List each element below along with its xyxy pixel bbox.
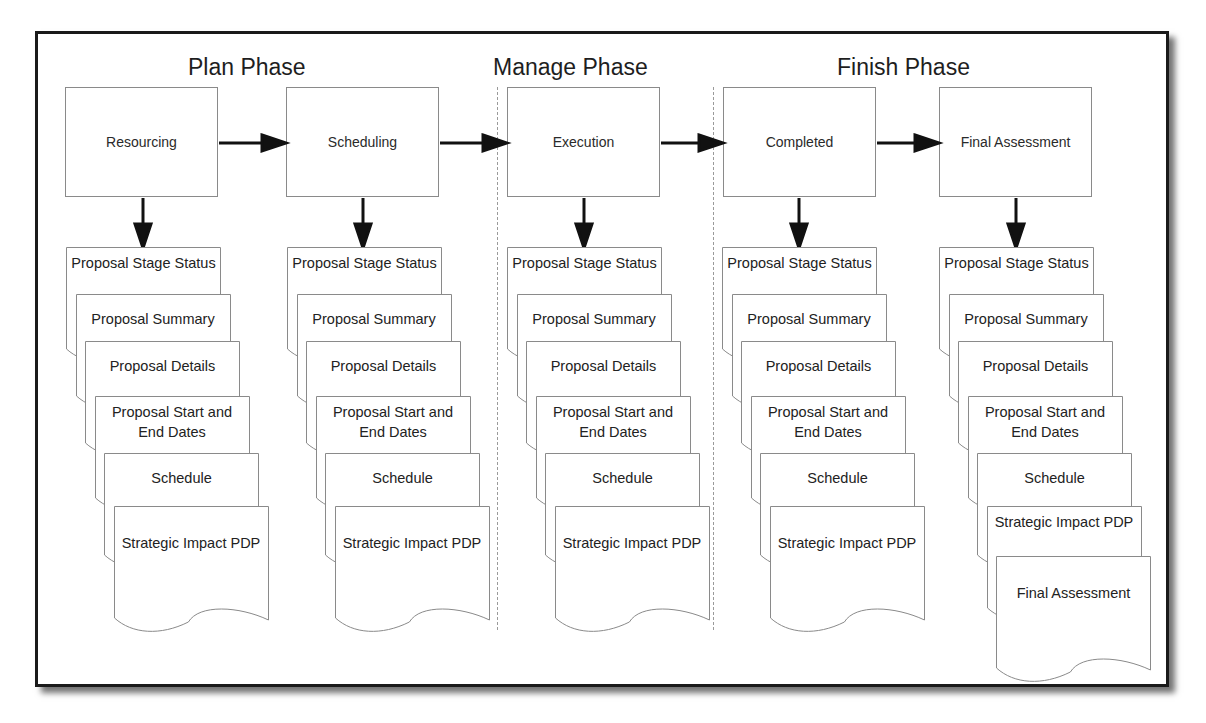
document-label: Proposal Summary: [949, 309, 1104, 329]
stage-label: Final Assessment: [961, 134, 1071, 150]
document-label: Schedule: [977, 468, 1132, 488]
document-label: Schedule: [325, 468, 480, 488]
stage-box-scheduling: Scheduling: [286, 87, 439, 197]
stage-label: Scheduling: [328, 134, 397, 150]
document-label: Schedule: [104, 468, 259, 488]
stage-box-execution: Execution: [507, 87, 660, 197]
document-label: Proposal Stage Status: [722, 253, 877, 273]
stage-label: Completed: [766, 134, 834, 150]
document-label: Strategic Impact PDP: [555, 533, 710, 553]
phase-title-manage: Manage Phase: [493, 56, 648, 79]
document-icon: [114, 506, 269, 634]
document-label: Proposal Stage Status: [507, 253, 662, 273]
document-icon: [996, 556, 1151, 684]
document-label: Strategic Impact PDP: [335, 533, 490, 553]
stage-label: Resourcing: [106, 134, 177, 150]
document-label: Proposal Stage Status: [939, 253, 1094, 273]
document-label: Proposal Summary: [732, 309, 887, 329]
document-label: Final Assessment: [996, 583, 1151, 603]
stage-box-resourcing: Resourcing: [65, 87, 218, 197]
document-label: Strategic Impact PDP: [114, 533, 269, 553]
document-label: Proposal Details: [958, 356, 1113, 376]
document-label: Proposal Details: [741, 356, 896, 376]
stage-box-final-assessment: Final Assessment: [939, 87, 1092, 197]
document-label: Schedule: [760, 468, 915, 488]
document-strategic-impact-pdp: Strategic Impact PDP: [770, 506, 925, 634]
phase-title-plan: Plan Phase: [188, 56, 306, 79]
document-final-assessment: Final Assessment: [996, 556, 1151, 684]
phase-divider-plan-manage: [497, 87, 498, 630]
document-label: Proposal Details: [526, 356, 681, 376]
document-icon: [770, 506, 925, 634]
document-label: Proposal Start and End Dates: [316, 402, 471, 442]
document-strategic-impact-pdp: Strategic Impact PDP: [555, 506, 710, 634]
document-label: Proposal Start and End Dates: [536, 402, 691, 442]
stage-box-completed: Completed: [723, 87, 876, 197]
document-label: Proposal Start and End Dates: [95, 402, 250, 442]
document-icon: [335, 506, 490, 634]
document-label: Proposal Details: [306, 356, 461, 376]
document-label: Strategic Impact PDP: [770, 533, 925, 553]
document-label: Proposal Start and End Dates: [968, 402, 1123, 442]
document-strategic-impact-pdp: Strategic Impact PDP: [114, 506, 269, 634]
document-strategic-impact-pdp: Strategic Impact PDP: [335, 506, 490, 634]
document-label: Proposal Start and End Dates: [751, 402, 906, 442]
document-label: Proposal Stage Status: [66, 253, 221, 273]
phase-divider-manage-finish: [713, 87, 714, 630]
document-label: Proposal Details: [85, 356, 240, 376]
document-label: Proposal Summary: [517, 309, 672, 329]
document-label: Proposal Stage Status: [287, 253, 442, 273]
phase-title-finish: Finish Phase: [837, 56, 970, 79]
document-label: Schedule: [545, 468, 700, 488]
stage-label: Execution: [553, 134, 614, 150]
document-label: Proposal Summary: [297, 309, 452, 329]
document-label: Proposal Summary: [76, 309, 231, 329]
document-icon: [555, 506, 710, 634]
document-label: Strategic Impact PDP: [987, 512, 1142, 532]
